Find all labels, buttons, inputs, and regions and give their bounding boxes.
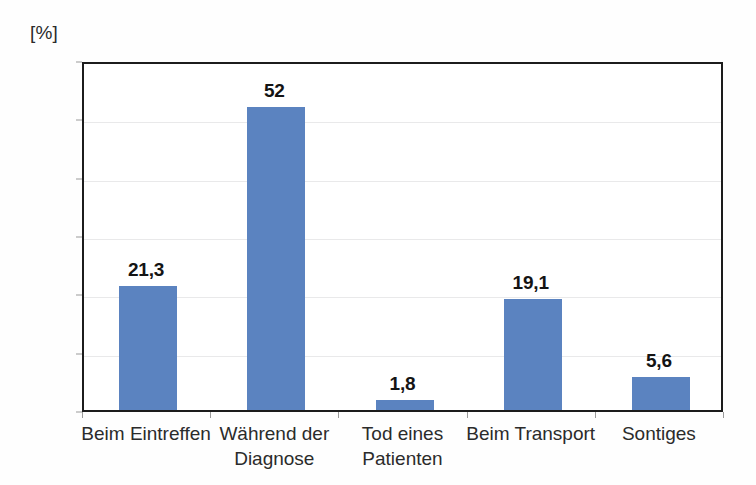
bar-chart: [%] 0102030405060 21,3Beim Eintreffen52W… bbox=[0, 0, 756, 485]
x-axis-category-line: Patienten bbox=[308, 446, 498, 471]
gridline bbox=[84, 239, 721, 240]
bar-value-label: 1,8 bbox=[390, 373, 416, 395]
bar[interactable] bbox=[247, 107, 305, 410]
bar[interactable] bbox=[632, 377, 690, 410]
x-axis-category-line: Sontiges bbox=[564, 421, 754, 446]
plot-inner bbox=[84, 64, 721, 410]
x-axis-tick-mark bbox=[723, 412, 724, 418]
x-axis-tick-mark bbox=[338, 412, 339, 418]
y-axis-unit-label: [%] bbox=[30, 22, 58, 44]
bar-value-label: 21,3 bbox=[128, 259, 164, 281]
gridline bbox=[84, 181, 721, 182]
x-axis-tick-mark bbox=[210, 412, 211, 418]
bar-value-label: 52 bbox=[264, 80, 285, 102]
bar[interactable] bbox=[119, 286, 177, 410]
x-axis-tick-mark bbox=[595, 412, 596, 418]
plot-area bbox=[82, 62, 723, 412]
bar-value-label: 19,1 bbox=[513, 272, 549, 294]
gridline bbox=[84, 356, 721, 357]
gridline bbox=[84, 297, 721, 298]
x-axis-tick-mark bbox=[467, 412, 468, 418]
bar-value-label: 5,6 bbox=[646, 350, 672, 372]
bar[interactable] bbox=[376, 400, 434, 411]
bar[interactable] bbox=[504, 299, 562, 410]
x-axis-tick-mark bbox=[82, 412, 83, 418]
x-axis-category-label: Sontiges bbox=[564, 421, 754, 446]
gridline bbox=[84, 122, 721, 123]
